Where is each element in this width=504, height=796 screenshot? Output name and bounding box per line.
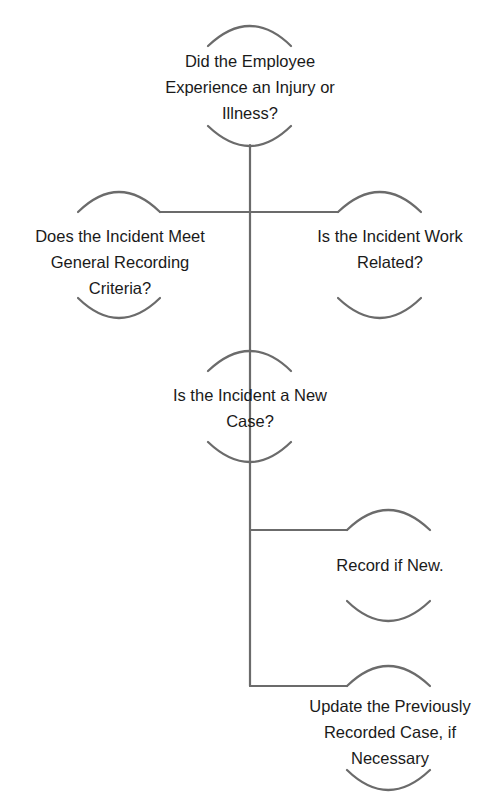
node-work-related: Is the Incident Work Related? [290,223,490,275]
node-text-line: Record if New. [300,552,480,578]
node-text-line: Experience an Injury or [130,74,370,100]
node-text-line: Update the Previously [290,693,490,719]
node-text-line: Is the Incident a New [150,382,350,408]
node-text-line: Criteria? [0,275,240,301]
node-text-line: Illness? [130,100,370,126]
node-text-line: General Recording [0,249,240,275]
node-text-line: Case? [150,408,350,434]
node-record-if-new: Record if New. [300,552,480,578]
node-text-line: Related? [290,249,490,275]
node-update-previous-case: Update the Previously Recorded Case, if … [290,693,490,771]
node-injury-or-illness: Did the Employee Experience an Injury or… [130,48,370,126]
node-arc-bottom [208,126,291,146]
node-text-line: Necessary [290,745,490,771]
node-general-recording-criteria: Does the Incident Meet General Recording… [0,223,240,301]
node-text-line: Did the Employee [130,48,370,74]
node-text-line: Does the Incident Meet [0,223,240,249]
node-text-line: Recorded Case, if [290,719,490,745]
node-new-case: Is the Incident a New Case? [150,382,350,434]
node-text-line: Is the Incident Work [290,223,490,249]
node-arc-top [208,26,291,46]
